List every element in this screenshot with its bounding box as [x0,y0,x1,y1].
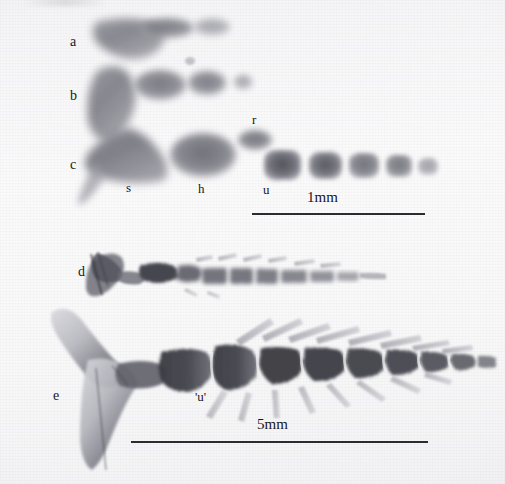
scale-bar-5mm [131,441,428,443]
panel-label-d: d [78,265,85,279]
structure-label-u-adult: 'u' [195,390,206,403]
panel-label-c: c [70,158,76,172]
specimen-b [88,57,253,142]
scale-bar-1mm [252,213,425,215]
structure-label-s: s [126,181,131,194]
specimen-c [78,128,438,204]
scale-label-5mm: 5mm [257,417,288,432]
specimen-d [86,252,386,299]
scale-label-1mm: 1mm [307,190,338,205]
structure-label-r: r [252,113,256,126]
structure-label-h: h [198,182,205,195]
structure-label-u: u [263,183,270,196]
specimen-e [51,309,496,470]
figure-plate: a b c d e s h r u 'u' 1mm 5mm [0,0,505,484]
panel-label-e: e [53,389,59,403]
panel-label-b: b [70,89,77,103]
specimen-artwork [0,0,505,484]
panel-label-a: a [70,35,76,49]
specimen-a [93,18,230,59]
